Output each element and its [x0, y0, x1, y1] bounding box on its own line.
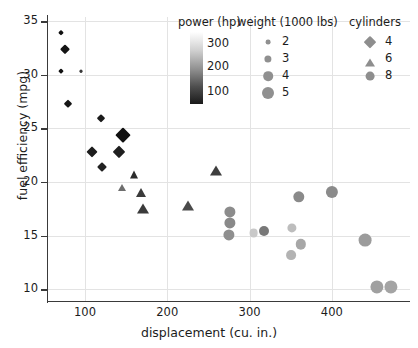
x-tick-label: 200 [147, 307, 187, 319]
legend-title-power: power (hp) [178, 15, 241, 29]
weight-legend-label: 5 [282, 87, 289, 99]
x-tick-label: 300 [230, 307, 270, 319]
data-point [223, 229, 234, 240]
data-point [326, 186, 338, 198]
cylinders-legend-label: 8 [385, 70, 392, 82]
data-point [63, 99, 72, 108]
data-point [224, 206, 235, 217]
weight-legend-label: 2 [282, 36, 289, 48]
data-point [136, 185, 146, 197]
data-points-layer [48, 17, 410, 302]
data-point [224, 217, 235, 228]
cylinders-legend-marker-triangle [365, 55, 375, 66]
y-tick-label: 10 [8, 283, 38, 295]
cylinders-legend-marker-circle [366, 72, 375, 81]
weight-legend-marker [262, 87, 274, 99]
weight-legend-marker [263, 71, 273, 81]
weight-legend-label: 4 [282, 70, 289, 82]
legend-title-weight: weight (1000 lbs) [237, 15, 338, 29]
data-point [97, 162, 107, 172]
data-point [118, 181, 126, 191]
data-point [259, 226, 269, 236]
legend-title-cylinders: cylinders [349, 15, 401, 29]
data-point [137, 201, 149, 214]
data-point [249, 229, 258, 238]
power-colorbar [190, 32, 203, 104]
data-point [79, 69, 83, 73]
scatter-plot-figure: 101520253035100200300400 fuel efficiency… [0, 0, 418, 348]
power-colorbar-tick-label: 200 [207, 61, 229, 73]
x-tick-label: 400 [312, 307, 352, 319]
data-point [58, 68, 63, 73]
data-point [210, 162, 222, 175]
data-point [130, 167, 138, 178]
cylinders-legend-label: 6 [385, 53, 392, 65]
data-point [112, 146, 125, 159]
power-colorbar-tick-label: 300 [207, 38, 229, 50]
data-point [115, 127, 130, 142]
y-axis-title: fuel efficiency (mpg) [15, 16, 30, 256]
x-tick-label: 100 [65, 307, 105, 319]
data-point [287, 224, 296, 233]
data-point [384, 280, 397, 293]
data-point [98, 114, 106, 122]
data-point [286, 250, 296, 260]
weight-legend-label: 3 [282, 53, 289, 65]
cylinders-legend-label: 4 [385, 36, 392, 48]
data-point [61, 44, 70, 53]
data-point [293, 191, 304, 202]
weight-legend-marker [266, 40, 271, 45]
x-axis-title: displacement (cu. in.) [0, 325, 418, 340]
data-point [58, 30, 64, 36]
data-point [86, 146, 98, 158]
data-point [182, 198, 194, 211]
power-colorbar-tick-label: 100 [207, 86, 229, 98]
data-point [358, 234, 371, 247]
data-point [370, 280, 383, 293]
data-point [295, 239, 305, 249]
